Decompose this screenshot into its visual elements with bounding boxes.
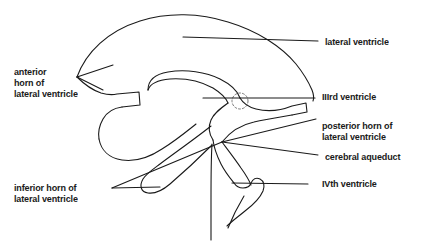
label-inferior-horn-line-1: lateral ventricle [14,193,78,204]
third-ventricle-roof [148,79,228,103]
label-lateral-ventricle: lateral ventricle [325,36,389,47]
aqueduct-left-wall [213,140,234,183]
label-anterior-horn: anterior horn of lateral ventricle [14,66,78,100]
central-canal-left [211,144,212,240]
interventricular-foramen-icon [232,93,248,109]
label-fourth-ventricle-line-0: IVth ventricle [322,178,377,189]
leader-inferior-horn-a [112,142,222,188]
label-cerebral-aqueduct: cerebral aqueduct [325,151,400,162]
leader-posterior-horn [222,119,316,142]
label-anterior-horn-line-1: horn of [14,77,78,88]
label-posterior-horn-line-1: lateral ventricle [322,131,392,142]
lateral-ventricle-outline [77,15,314,101]
inferior-horn [141,126,212,193]
label-fourth-ventricle: IVth ventricle [322,178,377,189]
label-inferior-horn: inferior horn of lateral ventricle [14,182,78,204]
label-third-ventricle-line-0: IIIrd ventricle [322,91,376,102]
label-inferior-horn-line-0: inferior horn of [14,182,78,193]
leader-fourth-ventricle [232,183,308,184]
leader-inferior-horn-b [112,187,160,188]
leader-cerebral-aqueduct [222,142,318,155]
label-anterior-horn-line-0: anterior [14,66,78,77]
diagram-page: lateral ventricle anterior horn of later… [0,0,436,244]
aqueduct-right-wall [222,142,251,185]
fourth-ventricle [227,178,264,226]
label-cerebral-aqueduct-line-0: cerebral aqueduct [325,151,400,162]
corpus-callosum-arc [148,71,240,98]
lateral-ventricle-floor [99,124,196,160]
label-posterior-horn: posterior horn of lateral ventricle [322,120,392,142]
anterior-horn-tip [99,107,122,139]
label-posterior-horn-line-0: posterior horn of [322,120,392,131]
central-canal-right [228,196,244,228]
label-anterior-horn-line-2: lateral ventricle [14,88,78,99]
third-to-aqueduct-channel [209,103,228,140]
third-ventricle-posterior-recess [222,115,292,142]
leader-lateral-ventricle [183,37,318,41]
third-ventricle-body [240,98,307,115]
label-lateral-ventricle-line-0: lateral ventricle [325,36,389,47]
leader-anterior-horn-a [77,65,113,77]
label-third-ventricle: IIIrd ventricle [322,91,376,102]
